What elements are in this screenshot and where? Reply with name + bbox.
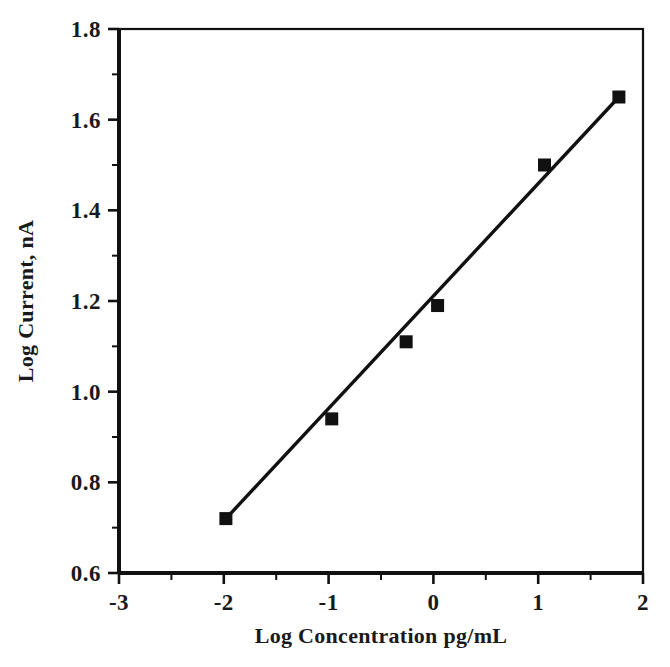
y-axis-title: Log Current, nA <box>13 220 38 382</box>
figure-container: -3-2-1012 0.60.81.01.21.41.61.8 Log Conc… <box>0 0 670 667</box>
y-tick-label: 0.8 <box>71 470 101 495</box>
data-point-marker <box>325 412 338 425</box>
y-tick-label: 1.0 <box>71 380 101 405</box>
data-point-marker <box>431 299 444 312</box>
data-point-marker <box>538 159 551 172</box>
y-tick-label: 1.2 <box>71 289 101 314</box>
data-point-marker <box>219 512 232 525</box>
x-tick-label: -3 <box>109 590 129 615</box>
y-tick-label: 1.4 <box>71 198 101 223</box>
x-tick-label: 0 <box>427 590 439 615</box>
data-point-marker <box>400 335 413 348</box>
x-tick-label: -1 <box>319 590 339 615</box>
y-tick-label: 1.8 <box>71 17 101 42</box>
data-point-marker <box>612 91 625 104</box>
x-axis-title: Log Concentration pg/mL <box>255 623 508 648</box>
calibration-curve-chart: -3-2-1012 0.60.81.01.21.41.61.8 Log Conc… <box>0 0 670 667</box>
x-tick-label: 1 <box>532 590 544 615</box>
x-tick-label: 2 <box>637 590 649 615</box>
x-tick-label: -2 <box>214 590 234 615</box>
y-tick-label: 1.6 <box>71 108 101 133</box>
y-tick-label: 0.6 <box>71 561 101 586</box>
